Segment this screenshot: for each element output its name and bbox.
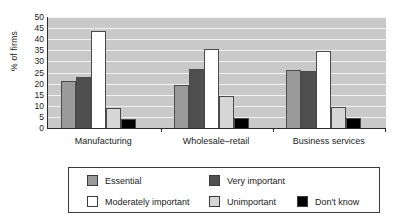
bar-don-t-know <box>121 119 136 128</box>
legend-label: Unimportant <box>227 197 276 207</box>
y-tick-label: 35 <box>35 46 44 54</box>
chart-legend: EssentialVery important Moderately impor… <box>68 167 380 213</box>
legend-item: Essential <box>87 175 142 186</box>
legend-item: Unimportant <box>209 196 276 207</box>
y-tick-label: 50 <box>35 13 44 21</box>
x-axis-category-label: Manufacturing <box>47 136 160 152</box>
y-tick-label: 30 <box>35 57 44 65</box>
legend-swatch-icon <box>209 175 220 186</box>
y-tick-label: 0 <box>39 124 44 132</box>
x-axis-category-label: Wholesale–retail <box>160 136 273 152</box>
category-separator <box>273 128 274 132</box>
category-separator <box>385 128 386 132</box>
legend-swatch-icon <box>209 196 220 207</box>
bar-moderately-important <box>316 51 331 128</box>
legend-swatch-icon <box>87 175 98 186</box>
bar-unimportant <box>219 96 234 128</box>
legend-item: Don't know <box>297 196 359 207</box>
bar-essential <box>174 85 189 128</box>
bar-don-t-know <box>234 118 249 128</box>
bar-moderately-important <box>204 49 219 128</box>
y-tick-label: 40 <box>35 35 44 43</box>
y-axis-tick-labels: 50454035302520151050 <box>18 17 44 128</box>
bar-group <box>273 17 386 128</box>
plot-area <box>47 17 386 129</box>
legend-label: Don't know <box>315 197 359 207</box>
x-axis-category-label: Business services <box>272 136 385 152</box>
bar-group <box>48 17 161 128</box>
y-tick-label: 25 <box>35 68 44 76</box>
y-tick-label: 15 <box>35 90 44 98</box>
bar-unimportant <box>331 107 346 128</box>
bar-very-important <box>189 69 204 128</box>
bar-unimportant <box>106 108 121 128</box>
legend-item: Moderately important <box>87 196 190 207</box>
bar-very-important <box>76 77 91 129</box>
legend-row-2: Moderately importantUnimportantDon't kno… <box>69 190 379 213</box>
y-tick-label: 10 <box>35 101 44 109</box>
x-axis-category-labels: ManufacturingWholesale–retailBusiness se… <box>47 136 385 152</box>
bar-moderately-important <box>91 31 106 128</box>
legend-label: Essential <box>105 176 142 186</box>
legend-row-1: EssentialVery important <box>69 169 379 192</box>
chart-figure: % of firms 50454035302520151050 Manufact… <box>0 0 401 224</box>
legend-label: Very important <box>227 176 285 186</box>
category-separator <box>161 128 162 132</box>
y-tick-label: 5 <box>39 112 44 120</box>
bar-very-important <box>301 71 316 128</box>
bar-groups <box>48 17 386 128</box>
bar-essential <box>61 81 76 128</box>
bar-essential <box>286 70 301 128</box>
bar-don-t-know <box>346 118 361 128</box>
legend-label: Moderately important <box>105 197 190 207</box>
y-tick-label: 45 <box>35 24 44 32</box>
legend-swatch-icon <box>87 196 98 207</box>
legend-item: Very important <box>209 175 285 186</box>
bar-group <box>161 17 274 128</box>
y-tick-label: 20 <box>35 79 44 87</box>
legend-swatch-icon <box>297 196 308 207</box>
